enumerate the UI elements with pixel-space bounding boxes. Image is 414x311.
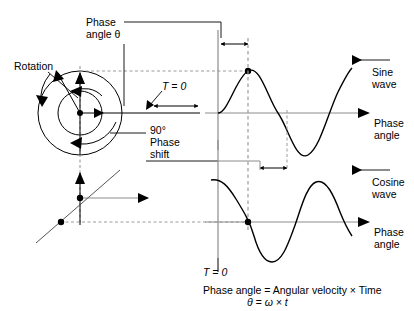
sine-curve: [218, 68, 352, 156]
phase-angle-theta-label: Phase angle θ: [86, 16, 120, 40]
caption-line-1: Phase angle = Angular velocity × Time: [203, 284, 382, 296]
t-zero-bottom-label: T = 0: [203, 266, 227, 278]
phase-shift-label: 90° Phase shift: [150, 124, 180, 160]
t-zero-top-label: T = 0: [162, 80, 186, 92]
theta-arrowhead: [75, 72, 85, 84]
phase-angle-axis-bottom-label: Phase angle: [374, 226, 404, 250]
t-zero-arrowhead: [94, 108, 104, 118]
cosine-curve: [211, 180, 352, 262]
projection-point-dot: [58, 219, 64, 225]
projection-horizontal-arrow: [138, 193, 149, 203]
rotation-leader: [48, 72, 78, 98]
phase-angle-axis-top-label: Phase angle: [374, 117, 404, 141]
projection-axes-group: [36, 170, 248, 243]
cosine-wave-label: Cosine wave: [372, 176, 405, 200]
t-zero-leader: [150, 91, 162, 105]
rotation-label: Rotation: [14, 60, 53, 72]
sine-wave-label: Sine wave: [372, 66, 397, 90]
rotation-arc-head: [36, 95, 48, 107]
sine-label-arrowhead: [352, 55, 362, 65]
phase-angle-diagram: Rotation Phase angle θ T = 0 90° Phase s…: [0, 0, 414, 311]
diagram-canvas: [0, 0, 414, 311]
sine-plot-group: [205, 30, 390, 230]
caption-line-2: θ = ω × t: [247, 296, 288, 308]
inner-rotation-arc-head: [70, 86, 82, 97]
cosine-zero-marker: [245, 219, 251, 225]
sine-axis-arrowhead: [358, 108, 370, 118]
projection-origin-dot: [77, 195, 83, 201]
circle-center-dot: [77, 110, 83, 116]
projection-vertical-arrow: [75, 172, 85, 184]
cosine-plot-group: [205, 140, 390, 272]
rotating-vector-arrowhead: [53, 70, 64, 82]
cosine-label-arrowhead: [352, 165, 362, 175]
cosine-axis-arrowhead: [358, 217, 370, 227]
